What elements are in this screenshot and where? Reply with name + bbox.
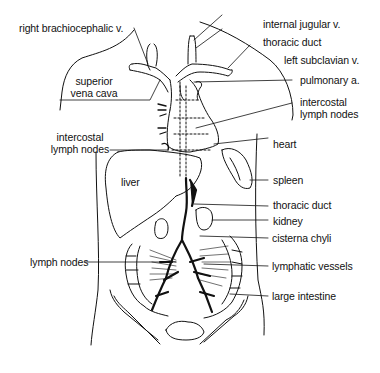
spleen-outline: [222, 148, 252, 188]
label-superior-vena-cava: superior vena cava: [64, 75, 124, 99]
lymphatic-system-diagram: right brachiocephalic v. superior vena c…: [0, 0, 380, 373]
label-large-intestine: large intestine: [272, 290, 336, 302]
great-veins: [129, 36, 232, 110]
label-intercostal-lymph-nodes-left: intercostal lymph nodes: [44, 131, 116, 155]
label-lymphatic-vessels: lymphatic vessels: [272, 260, 353, 272]
label-kidney: kidney: [273, 215, 303, 227]
body-outline: [60, 22, 293, 345]
label-thoracic-duct-upper: thoracic duct: [263, 36, 321, 48]
label-right-brachiocephalic-vein: right brachiocephalic v.: [19, 22, 123, 34]
label-thoracic-duct-lower: thoracic duct: [273, 199, 331, 211]
label-spleen: spleen: [273, 174, 303, 186]
label-pulmonary-artery: pulmonary a.: [300, 74, 360, 86]
label-left-subclavian-vein: left subclavian v.: [284, 54, 359, 66]
label-intercostal-lymph-nodes-right: intercostal lymph nodes: [300, 96, 358, 120]
pelvis-outline: [110, 290, 248, 344]
label-cisterna-chyli: cisterna chyli: [272, 232, 331, 244]
intercostal-nodes-cluster: [158, 104, 169, 150]
heart-outline: [167, 80, 218, 176]
large-intestine-outline: [125, 236, 242, 318]
label-lymph-nodes: lymph nodes: [30, 256, 88, 268]
thoracic-duct: [152, 178, 214, 312]
label-heart: heart: [273, 138, 296, 150]
leader-lines: [60, 15, 292, 296]
label-liver: liver: [121, 176, 140, 188]
lymphatic-vessel-fans: [150, 246, 230, 286]
label-internal-jugular-vein: internal jugular v.: [263, 18, 340, 30]
